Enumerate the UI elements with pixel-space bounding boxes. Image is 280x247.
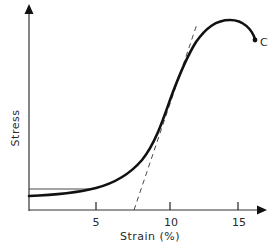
point-c-label: C — [260, 36, 268, 49]
y-axis-label: Stress — [9, 110, 22, 147]
point-c-marker — [253, 38, 258, 43]
x-axis-label: Strain (%) — [120, 230, 180, 243]
x-tick-label-10: 10 — [164, 216, 178, 229]
stress-strain-chart: 5 10 15 Strain (%) Stress C — [0, 0, 280, 247]
x-tick-label-5: 5 — [93, 216, 100, 229]
stress-strain-curve — [29, 20, 255, 196]
x-axis-arrow-icon — [257, 206, 267, 215]
y-axis-arrow-icon — [25, 4, 34, 14]
tangent-dashed-line — [134, 24, 197, 210]
x-tick-label-15: 15 — [232, 216, 246, 229]
